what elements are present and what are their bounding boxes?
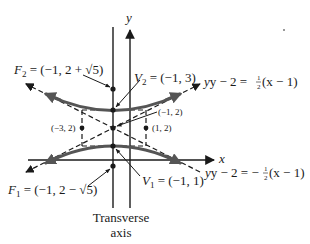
v1-label: V1 = (−1, 1) bbox=[142, 173, 204, 190]
point-right bbox=[144, 126, 149, 131]
lower-asymptote-equation: yy − 2 = − bbox=[203, 165, 259, 180]
upper-branch-right-arrow bbox=[166, 94, 180, 100]
v1-pointer bbox=[116, 149, 140, 176]
left-point-label: (−3, 2) bbox=[51, 123, 76, 133]
focus-f2-point bbox=[110, 86, 115, 91]
hyperbola-diagram: x y F2 = (−1, 2 + √5) V2 = (−1, 3) yy − … bbox=[0, 0, 310, 244]
upper-branch-left-arrow bbox=[46, 94, 60, 100]
upper-asymptote-equation: yy − 2 = bbox=[202, 74, 247, 89]
upper-frac-num: 1 bbox=[257, 74, 261, 82]
upper-asymptote-rhs: (x − 1) bbox=[262, 74, 298, 89]
upper-frac-den: 2 bbox=[257, 83, 261, 91]
vertex-v1-point bbox=[110, 143, 115, 148]
center-point bbox=[110, 125, 115, 130]
point-left bbox=[80, 126, 85, 131]
v2-label: V2 = (−1, 3) bbox=[134, 70, 196, 87]
center-label: (−1, 2) bbox=[158, 107, 183, 117]
y-axis-label: y bbox=[124, 10, 132, 25]
f1-label: F1 = (−1, 2 − √5) bbox=[7, 182, 97, 199]
x-axis-label: x bbox=[218, 151, 225, 166]
lower-frac-den: 2 bbox=[264, 174, 268, 182]
asymptote-lower-tail bbox=[26, 170, 30, 172]
transverse-axis-caption-line1: Transverse bbox=[93, 210, 150, 225]
speck bbox=[283, 29, 285, 31]
right-point-label: (1, 2) bbox=[152, 123, 172, 133]
f2-label: F2 = (−1, 2 + √5) bbox=[13, 62, 103, 79]
transverse-axis-caption-line2: axis bbox=[111, 225, 132, 240]
center-pointer bbox=[117, 112, 157, 126]
vertex-v2-point bbox=[110, 107, 115, 112]
focus-f1-point bbox=[110, 163, 115, 168]
lower-asymptote-rhs: (x − 1) bbox=[269, 165, 305, 180]
asymptote-upper-tail bbox=[26, 84, 30, 86]
diagram-canvas: x y F2 = (−1, 2 + √5) V2 = (−1, 3) yy − … bbox=[0, 0, 310, 244]
lower-frac-num: 1 bbox=[264, 165, 268, 173]
